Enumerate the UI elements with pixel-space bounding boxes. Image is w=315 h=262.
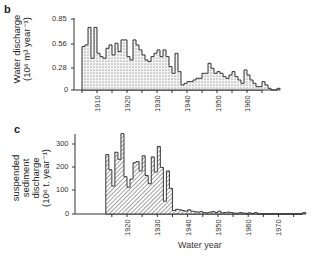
- sediment-discharge-chart: [72, 134, 306, 217]
- chart-canvas: [0, 0, 315, 262]
- water-discharge-chart: [71, 18, 280, 93]
